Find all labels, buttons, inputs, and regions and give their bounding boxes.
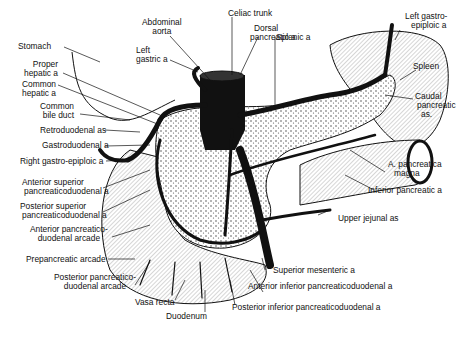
label-gastroduodenal: Gastroduodenal a (42, 141, 109, 150)
label-left-gastric: Left gastric a (136, 46, 168, 64)
label-post-sup-pd: Posterior superior pancreaticoduodenal a (20, 202, 107, 220)
label-retroduodenal: Retroduodenal as (40, 126, 106, 135)
upper-jejunal-branch (262, 210, 330, 220)
label-caudal-pancreatic: Caudal pancreatic as. (415, 92, 456, 119)
label-vasa-recta: Vasa recta (135, 298, 174, 307)
label-proper-hepatic: Proper hepatic a (24, 60, 58, 78)
label-a-pancreatica-magna: A. pancreatica magna (388, 160, 442, 178)
label-ant-pd-arcade: Anterior pancreatico- duodenal arcade (30, 225, 108, 243)
label-right-gastroepiploic: Right gastro-epiploic a (20, 157, 103, 166)
label-celiac-trunk: Celiac trunk (228, 9, 272, 18)
label-common-hepatic: Common hepatic a (22, 80, 56, 98)
label-prepancreatic-arcade: Prepancreatic arcade (26, 255, 106, 264)
aorta-shape (200, 75, 245, 150)
label-ant-sup-pd: Anterior superior pancreaticoduodenal a (22, 178, 109, 196)
label-post-inf-pd: Posterior inferior pancreaticoduodenal a (232, 303, 381, 312)
label-upper-jejunal: Upper jejunal as (338, 214, 399, 223)
label-spleen: Spleen (413, 62, 439, 71)
label-superior-mesenteric: Superior mesenteric a (273, 266, 355, 275)
label-abdominal-aorta: Abdominal aorta (142, 18, 182, 36)
label-splenic: Splenic a (276, 33, 310, 42)
label-common-bile-duct: Common bile duct (40, 102, 74, 120)
label-duodenum: Duodenum (166, 312, 207, 321)
label-left-gastroepiploic: Left gastro- epiploic a (395, 12, 447, 30)
label-stomach: Stomach (18, 42, 51, 51)
label-ant-inf-pd: Anterior inferior pancreaticoduodenal a (248, 282, 392, 291)
label-inferior-pancreatic: Inferior pancreatic a (368, 186, 442, 195)
label-post-pd-arcade: Posterior pancreatico- duodenal arcade (54, 273, 136, 291)
